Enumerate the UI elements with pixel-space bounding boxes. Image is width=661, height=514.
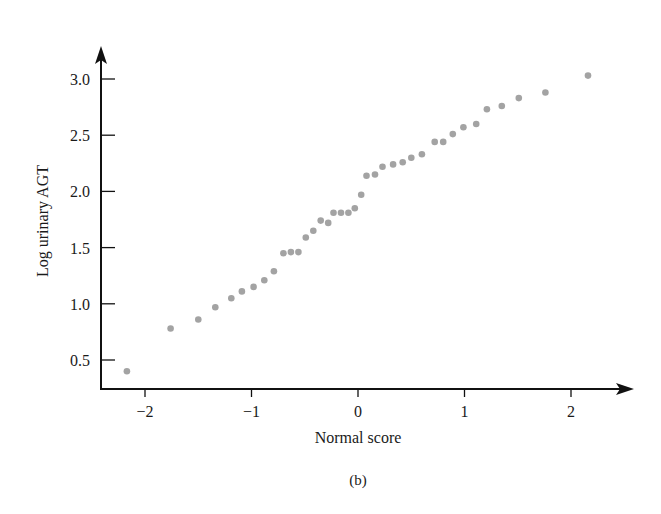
data-point (358, 192, 365, 199)
data-point (363, 172, 370, 179)
data-point (516, 95, 523, 102)
data-point (408, 154, 415, 161)
data-point (195, 316, 202, 323)
x-tick-label: −2 (136, 403, 153, 420)
data-point (325, 220, 332, 227)
data-point (124, 368, 131, 375)
y-tick-label: 2.5 (70, 127, 90, 144)
y-tick-label: 3.0 (70, 71, 90, 88)
x-tick-label: 2 (567, 403, 575, 420)
data-point (303, 234, 310, 241)
data-point (317, 217, 324, 224)
data-point (431, 139, 438, 146)
data-point (484, 106, 491, 113)
data-point (460, 124, 467, 131)
y-tick-label: 1.0 (70, 296, 90, 313)
data-point (399, 159, 406, 166)
data-point (379, 163, 386, 170)
data-points (124, 72, 592, 374)
data-point (372, 171, 379, 178)
data-point (542, 89, 549, 96)
x-ticks: −2−1012 (136, 389, 575, 420)
y-tick-label: 0.5 (70, 352, 90, 369)
y-ticks: 0.51.01.52.02.53.0 (70, 71, 115, 369)
data-point (212, 304, 219, 311)
x-axis-title: Normal score (315, 429, 402, 446)
data-point (390, 161, 397, 168)
axes (95, 46, 634, 395)
data-point (167, 325, 174, 332)
x-tick-label: −1 (243, 403, 260, 420)
y-axis-title: Log urinary AGT (34, 165, 52, 277)
data-point (271, 268, 278, 275)
x-tick-label: 0 (354, 403, 362, 420)
data-point (330, 210, 337, 217)
data-point (585, 72, 592, 79)
data-point (338, 210, 345, 217)
y-tick-label: 2.0 (70, 183, 90, 200)
y-tick-label: 1.5 (70, 240, 90, 257)
data-point (352, 205, 359, 212)
figure-caption: (b) (349, 472, 367, 489)
data-point (450, 131, 457, 138)
data-point (261, 277, 268, 284)
data-point (295, 249, 302, 256)
data-point (419, 151, 426, 158)
data-point (499, 103, 506, 110)
data-point (239, 288, 246, 295)
data-point (473, 121, 480, 128)
data-point (280, 250, 287, 257)
data-point (345, 210, 352, 217)
data-point (440, 139, 447, 146)
data-point (250, 284, 257, 291)
x-tick-label: 1 (461, 403, 469, 420)
data-point (288, 249, 295, 256)
data-point (228, 295, 235, 302)
normal-probability-plot: −2−1012 0.51.01.52.02.53.0 Normal score … (0, 0, 661, 514)
data-point (310, 227, 317, 234)
